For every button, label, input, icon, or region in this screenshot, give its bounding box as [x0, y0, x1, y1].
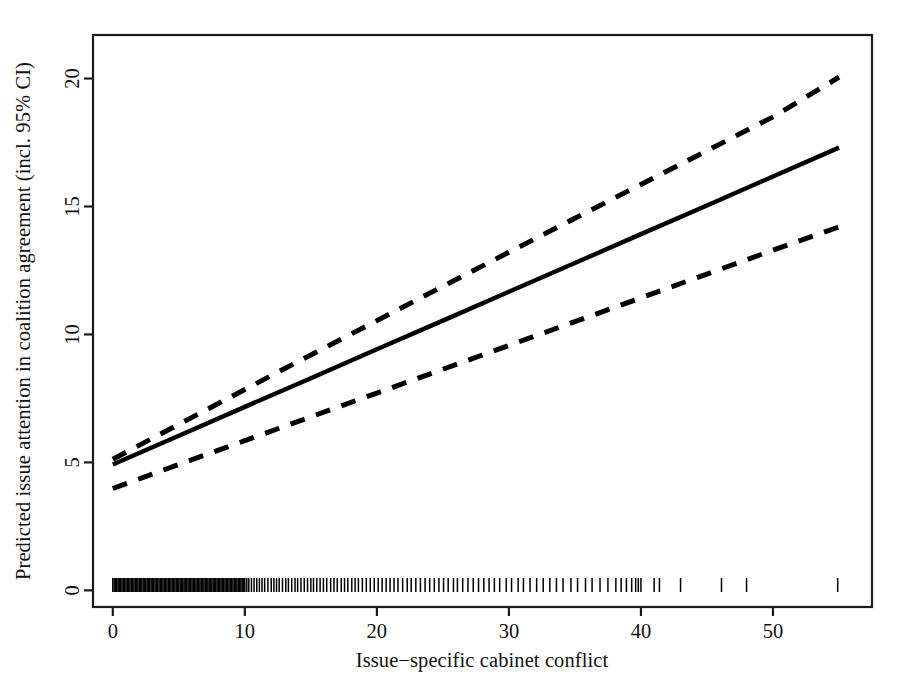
y-tick-label: 10	[61, 324, 83, 345]
y-tick-label: 15	[61, 196, 83, 217]
y-tick-label: 20	[61, 68, 83, 89]
x-tick-label: 30	[499, 620, 520, 642]
y-tick-label: 5	[61, 457, 83, 467]
plot-frame	[93, 35, 872, 607]
y-axis-title: Predicted issue attention in coalition a…	[12, 62, 35, 580]
x-tick-label: 20	[367, 620, 388, 642]
y-tick-label: 0	[61, 585, 83, 595]
x-axis-ticks	[113, 607, 773, 616]
x-tick-label: 10	[235, 620, 256, 642]
x-tick-label: 0	[108, 620, 118, 642]
y-axis-tick-labels: 05101520	[61, 68, 83, 595]
y-axis-ticks	[84, 79, 93, 591]
x-tick-label: 40	[631, 620, 652, 642]
figure-panel: 01020304050 05101520 Issue−specific cabi…	[0, 0, 900, 693]
x-tick-label: 50	[763, 620, 784, 642]
x-axis-tick-labels: 01020304050	[108, 620, 784, 642]
x-axis-title: Issue−specific cabinet conflict	[356, 649, 609, 672]
regression-plot: 01020304050 05101520 Issue−specific cabi…	[0, 0, 900, 693]
